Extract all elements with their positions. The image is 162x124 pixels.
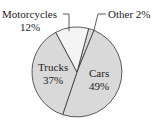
other-leader-line bbox=[94, 14, 106, 30]
trucks-label: Trucks bbox=[38, 61, 68, 73]
cars-value: 49% bbox=[89, 80, 109, 92]
motorcycles-label: Motorcycles bbox=[2, 8, 57, 20]
other-label: Other 2% bbox=[108, 8, 150, 20]
cars-label: Cars bbox=[89, 67, 109, 79]
trucks-value: 37% bbox=[43, 74, 63, 86]
pie-chart: Motorcycles 12% Other 2% Trucks 37% Cars… bbox=[0, 0, 162, 124]
motorcycles-value: 12% bbox=[20, 21, 40, 33]
